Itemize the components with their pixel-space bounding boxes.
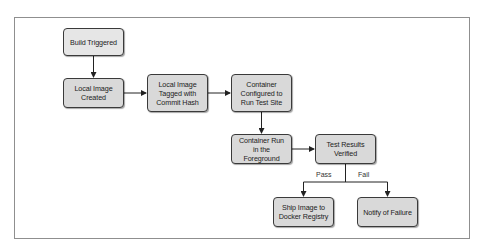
node-ship-image: Ship Image to Docker Registry <box>273 197 334 227</box>
node-test-results-verified: Test Results Verified <box>315 134 376 164</box>
edge-label-pass: Pass <box>316 171 332 178</box>
edge-label-fail: Fail <box>358 171 369 178</box>
node-build-triggered: Build Triggered <box>63 28 124 56</box>
node-local-image-created: Local Image Created <box>63 78 124 108</box>
node-container-run: Container Run in the Foreground <box>231 134 292 164</box>
node-local-image-tagged: Local Image Tagged with Commit Hash <box>147 74 208 112</box>
node-container-configured: Container Configured to Run Test Site <box>231 74 292 112</box>
node-notify-failure: Notify of Failure <box>357 197 418 227</box>
